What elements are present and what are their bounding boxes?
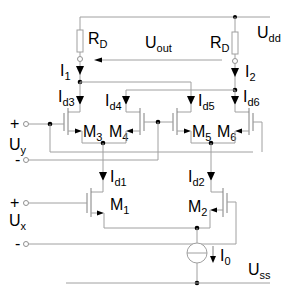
id5-label: Id5 [198, 92, 215, 112]
i1-label: I1 [60, 62, 71, 82]
rd-right-label: RD [210, 34, 230, 54]
udd-rail [80, 15, 270, 19]
id2-arrow-icon [207, 172, 215, 181]
id1-label: Id1 [110, 168, 127, 188]
id3-label: Id3 [58, 88, 75, 108]
transistor-m6 [235, 105, 253, 135]
i2-arrow-icon [231, 68, 239, 77]
rd-left-label: RD [88, 30, 108, 50]
uy-plus: + [10, 115, 19, 132]
id3-arrow-icon [76, 96, 84, 105]
id1-arrow-icon [99, 172, 107, 181]
ux-label: Ux [9, 212, 27, 232]
m6-label: M6 [217, 123, 236, 143]
transistor-m4 [126, 105, 144, 135]
ux-minus: - [15, 235, 20, 252]
id4-label: Id4 [105, 92, 122, 112]
current-source-i0 [187, 226, 207, 286]
id4-arrow-icon [122, 96, 130, 105]
ux-input-wiring [24, 201, 88, 247]
i1-arrow-icon [76, 66, 84, 75]
ux-plus: + [10, 194, 19, 211]
id6-label: Id6 [243, 88, 260, 108]
m2-label: M2 [188, 198, 207, 218]
i0-arrow-icon [210, 246, 216, 263]
udd-label: Udd [257, 24, 281, 44]
resistor-right [232, 17, 238, 90]
transistor-m5 [173, 105, 191, 135]
transistor-m3 [64, 105, 82, 135]
id6-arrow-icon [231, 96, 239, 105]
uy-minus: - [15, 151, 20, 168]
id2-label: Id2 [188, 168, 205, 188]
uss-label: Uss [248, 261, 271, 281]
transistor-m1 [87, 181, 197, 228]
uout-arrow [94, 58, 222, 63]
cross-wiring [78, 80, 238, 96]
i2-label: I2 [245, 63, 256, 83]
m1-label: M1 [110, 196, 129, 216]
uout-label: Uout [145, 34, 172, 54]
i0-label: I0 [220, 247, 231, 267]
m3-label: M3 [83, 123, 102, 143]
id5-arrow-icon [187, 96, 195, 105]
circuit-schematic: Udd RD RD Uout I1 I2 Id3 Id4 [0, 0, 292, 299]
m5-label: M5 [192, 123, 211, 143]
